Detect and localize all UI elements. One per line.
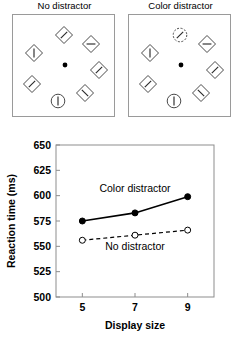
- stimulus-item-diamond-2: [207, 62, 224, 79]
- stimulus-panel-no-distractor: No distractor: [12, 0, 117, 130]
- panel-title-no-distractor: No distractor: [12, 0, 117, 12]
- fixation-dot: [179, 63, 184, 68]
- stimulus-array-no-distractor: [13, 15, 116, 118]
- stimulus-panels-section: No distractor Color distractor: [0, 0, 241, 133]
- data-point-color-distractor-7: [132, 210, 138, 216]
- reaction-time-line-chart: 500525550575600625650579Display sizeReac…: [0, 133, 241, 345]
- series-line-color-distractor: [82, 197, 187, 221]
- panel-title-color-distractor: Color distractor: [128, 0, 233, 12]
- stimulus-item-circle-4: [51, 94, 65, 108]
- x-tick-label: 5: [79, 301, 85, 313]
- y-tick-label: 650: [33, 139, 51, 151]
- stimulus-item-circle-0: [173, 28, 187, 42]
- stimulus-item-diamond-6: [142, 45, 159, 62]
- data-point-no-distractor-5: [79, 237, 85, 243]
- x-tick-label: 9: [185, 301, 191, 313]
- x-tick-label: 7: [132, 301, 138, 313]
- data-point-color-distractor-5: [79, 218, 85, 224]
- stimulus-item-diamond-1: [83, 36, 100, 53]
- stimulus-item-diamond-3: [193, 85, 210, 102]
- y-tick-label: 550: [33, 240, 51, 252]
- data-point-no-distractor-7: [132, 232, 138, 238]
- panel-frame-color-distractor: [128, 14, 231, 117]
- y-axis-title: Reaction time (ms): [5, 174, 17, 268]
- x-axis-title: Display size: [105, 319, 165, 331]
- stimulus-item-circle-4: [167, 94, 181, 108]
- stimulus-item-diamond-1: [199, 36, 216, 53]
- y-tick-label: 500: [33, 291, 51, 303]
- y-tick-label: 600: [33, 189, 51, 201]
- panel-frame-no-distractor: [12, 14, 115, 117]
- stimulus-item-diamond-2: [91, 62, 108, 79]
- stimulus-panel-color-distractor: Color distractor: [128, 0, 233, 130]
- series-label-no-distractor: No distractor: [105, 240, 165, 252]
- stimulus-item-diamond-6: [26, 45, 43, 62]
- y-tick-label: 575: [33, 215, 51, 227]
- stimulus-item-diamond-0: [56, 27, 73, 44]
- data-point-color-distractor-9: [185, 194, 191, 200]
- stimulus-item-diamond-3: [77, 85, 94, 102]
- y-tick-label: 625: [33, 164, 51, 176]
- fixation-dot: [63, 63, 68, 68]
- stimulus-item-diamond-5: [140, 76, 157, 93]
- data-point-no-distractor-9: [185, 227, 191, 233]
- reaction-time-chart-section: 500525550575600625650579Display sizeReac…: [0, 133, 241, 345]
- stimulus-array-color-distractor: [129, 15, 232, 118]
- y-tick-label: 525: [33, 265, 51, 277]
- stimulus-item-diamond-5: [24, 76, 41, 93]
- series-label-color-distractor: Color distractor: [99, 182, 171, 194]
